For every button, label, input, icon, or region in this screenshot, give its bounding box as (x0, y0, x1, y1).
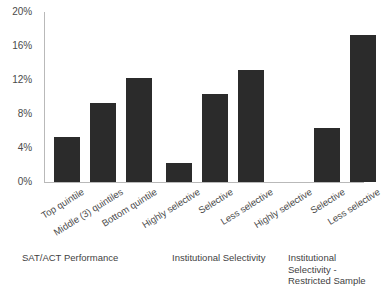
group-caption: Institutional Selectivity - Restricted S… (288, 252, 380, 287)
bar (126, 78, 152, 182)
bar (314, 128, 340, 182)
y-axis-tick-label: 8% (0, 109, 32, 119)
bar (238, 70, 264, 182)
bar (202, 94, 228, 182)
bar (90, 103, 116, 182)
y-axis-tick-label: 16% (0, 41, 32, 51)
plot-area (44, 12, 364, 182)
bar (166, 163, 192, 182)
x-axis-category-labels: Top quintile Middle (3) quintiles Bottom… (0, 182, 376, 244)
group-caption: SAT/ACT Performance (22, 252, 172, 264)
bar (350, 35, 376, 182)
bar (54, 137, 80, 182)
y-axis-tick-label: 20% (0, 7, 32, 17)
group-caption: Institutional Selectivity (172, 252, 302, 264)
group-captions: SAT/ACT Performance Institutional Select… (0, 252, 376, 292)
y-axis-tick-label: 12% (0, 75, 32, 85)
y-axis-tick-label: 4% (0, 143, 32, 153)
